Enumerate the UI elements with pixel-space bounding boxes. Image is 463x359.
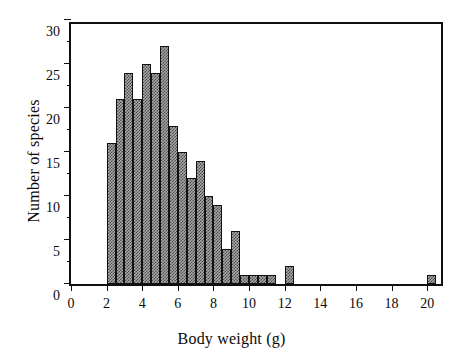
x-axis-tick — [427, 284, 428, 291]
plot-area: 051015202530 02468101214161820 — [69, 22, 443, 286]
x-axis-tick-label: 16 — [349, 296, 363, 312]
x-axis-tick-label: 8 — [210, 296, 217, 312]
y-axis-tick — [64, 19, 71, 20]
x-axis-tick — [213, 284, 214, 291]
x-axis-tick-label: 4 — [139, 296, 146, 312]
histogram-bar — [285, 266, 294, 284]
y-axis-tick — [64, 283, 71, 284]
y-axis-tick — [64, 239, 71, 240]
x-axis-tick — [249, 284, 250, 291]
histogram-bar — [187, 178, 196, 284]
histogram-bar — [133, 99, 142, 284]
histogram-bar — [249, 275, 258, 284]
x-axis-tick-label: 12 — [278, 296, 292, 312]
histogram-bar — [124, 73, 133, 284]
x-axis-tick — [392, 284, 393, 291]
histogram-bar — [240, 275, 249, 284]
x-axis-tick — [356, 284, 357, 291]
histogram-bar — [205, 196, 214, 284]
x-axis-tick-label: 10 — [242, 296, 256, 312]
y-axis-tick — [64, 151, 71, 152]
histogram-bar — [258, 275, 267, 284]
x-axis-tick — [71, 284, 72, 291]
x-axis-tick-label: 14 — [313, 296, 327, 312]
bars-layer — [71, 24, 441, 284]
y-axis-minor-tick — [67, 217, 71, 218]
histogram-bar — [178, 152, 187, 284]
histogram-bar — [231, 231, 240, 284]
histogram-bar — [427, 275, 436, 284]
x-axis-tick — [320, 284, 321, 291]
y-axis-title: Number of species — [25, 51, 43, 271]
histogram-bar — [267, 275, 276, 284]
y-axis-minor-tick — [67, 41, 71, 42]
histogram-bar — [107, 143, 116, 284]
histogram-bar — [196, 161, 205, 284]
histogram-bar — [142, 64, 151, 284]
histogram-bar — [160, 46, 169, 284]
histogram-bar — [169, 126, 178, 284]
y-axis-tick — [64, 107, 71, 108]
histogram-bar — [213, 205, 222, 284]
x-axis-tick-label: 18 — [385, 296, 399, 312]
histogram-bar — [222, 249, 231, 284]
x-axis-tick-label: 0 — [68, 296, 75, 312]
x-axis-tick-label: 20 — [420, 296, 434, 312]
x-axis-title: Body weight (g) — [0, 330, 463, 348]
y-axis-minor-tick — [67, 129, 71, 130]
histogram-chart: Number of species Body weight (g) 051015… — [0, 0, 463, 359]
y-axis-minor-tick — [67, 173, 71, 174]
y-axis-tick — [64, 195, 71, 196]
x-axis-tick-label: 2 — [103, 296, 110, 312]
y-axis-minor-tick — [67, 261, 71, 262]
x-axis-tick-label: 6 — [174, 296, 181, 312]
x-axis-tick — [107, 284, 108, 291]
x-axis-tick — [285, 284, 286, 291]
x-axis-tick — [142, 284, 143, 291]
histogram-bar — [151, 73, 160, 284]
x-axis-tick — [178, 284, 179, 291]
y-axis-tick — [64, 63, 71, 64]
y-axis-minor-tick — [67, 85, 71, 86]
histogram-bar — [116, 99, 125, 284]
